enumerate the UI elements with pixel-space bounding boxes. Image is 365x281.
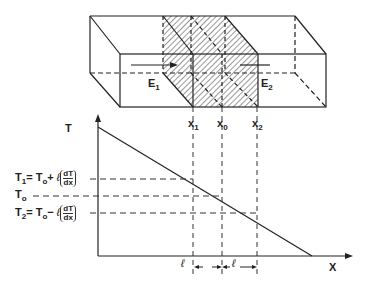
fraction-dt-dx: dTdx	[60, 205, 76, 222]
interval-label-1: ℓ	[181, 258, 185, 269]
label-x0: x0	[217, 118, 228, 132]
interval-arrows	[194, 265, 257, 269]
label-e2: E2	[261, 78, 273, 92]
label-t0: To	[15, 189, 27, 203]
diagram-canvas	[0, 0, 365, 281]
bar-box	[90, 16, 326, 107]
x-axis-arrowhead	[345, 253, 353, 259]
label-t1-equation: T1= To+ ℓdTdx	[15, 170, 76, 187]
label-e1: E1	[148, 78, 160, 92]
y-axis-arrowhead	[95, 114, 101, 122]
label-x1: x1	[188, 118, 199, 132]
label-t2-equation: T2= To− ℓdTdx	[15, 205, 76, 222]
marker-lines	[193, 107, 257, 275]
interval-label-2: ℓ	[232, 258, 236, 269]
temperature-profile-line	[98, 127, 312, 256]
x-axis-label: X	[329, 262, 336, 273]
y-axis-label: T	[65, 123, 72, 134]
fraction-dt-dx: dTdx	[60, 170, 76, 187]
graph-axes	[95, 114, 353, 259]
label-x2: x2	[252, 118, 263, 132]
